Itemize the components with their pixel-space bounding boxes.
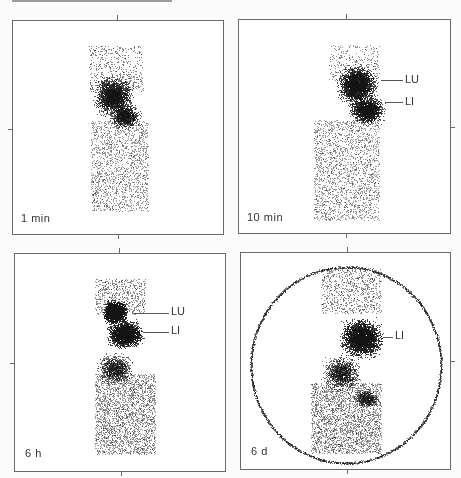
- annotation-li: LI: [405, 95, 414, 107]
- leader-line-li: [383, 337, 393, 338]
- tick-mark: [451, 127, 455, 128]
- scintigram-image: [239, 20, 452, 235]
- tick-mark: [346, 14, 347, 19]
- time-label: 6 h: [25, 447, 42, 459]
- tick-mark: [117, 15, 118, 20]
- scintigram-image: [241, 253, 452, 471]
- annotation-lu: LU: [405, 73, 419, 85]
- cropped-caption-line: [12, 0, 172, 2]
- leader-line-li: [143, 332, 169, 333]
- leader-line-lu: [381, 80, 403, 81]
- time-label: 6 d: [251, 445, 268, 457]
- tick-mark: [121, 472, 122, 476]
- tick-mark: [119, 248, 120, 253]
- tick-mark: [347, 247, 348, 252]
- tick-mark: [8, 129, 12, 130]
- time-label: 10 min: [247, 211, 283, 223]
- annotation-lu: LU: [171, 305, 185, 317]
- scintigram-panel-6d: 6 d LI: [240, 252, 451, 470]
- scintigram-panel-10min: 10 min LU LI: [238, 19, 451, 234]
- annotation-li: LI: [171, 324, 180, 336]
- annotation-li: LI: [395, 329, 404, 341]
- leader-line-lu: [133, 313, 169, 314]
- time-label: 1 min: [21, 212, 50, 224]
- leader-line-li: [385, 102, 403, 103]
- scintigram-image: [13, 21, 225, 236]
- tick-mark: [347, 470, 348, 474]
- scintigram-panel-6h: 6 h LU LI: [14, 253, 226, 472]
- tick-mark: [451, 361, 455, 362]
- tick-mark: [346, 234, 347, 238]
- tick-mark: [118, 235, 119, 239]
- tick-mark: [10, 363, 14, 364]
- scintigram-panel-1min: 1 min: [12, 20, 224, 235]
- scintigram-image: [15, 254, 227, 473]
